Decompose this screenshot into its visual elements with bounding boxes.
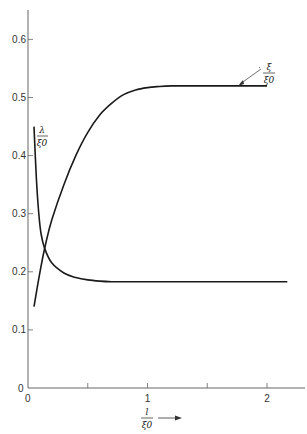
chart-canvas: 0.10.20.30.40.50.6 12 ξ ξ0 λ ξ0 0 0 l ξ0: [0, 0, 307, 434]
lambda-curve-label: λ ξ0: [37, 125, 48, 148]
xi-label-numerator: ξ: [267, 62, 273, 72]
y-tick-label: 0.1: [12, 324, 26, 335]
xi-curve: [34, 86, 267, 307]
axes: [28, 10, 305, 388]
y-tick-label: 0.5: [12, 92, 26, 103]
xi-label-leader: [259, 67, 260, 68]
series-layer: [34, 86, 287, 307]
y-tick-label: 0.2: [12, 266, 26, 277]
x-ticks: 12: [88, 383, 270, 404]
y-origin-label: 0: [18, 383, 24, 394]
y-tick-label: 0.6: [12, 34, 26, 45]
xi-label-denominator: ξ0: [264, 75, 275, 85]
x-axis-label: l ξ0: [141, 407, 182, 430]
lambda-label-denominator: ξ0: [37, 138, 48, 148]
x-label-numerator: l: [146, 407, 149, 417]
x-tick-label: 1: [145, 393, 151, 404]
y-ticks: 0.10.20.30.40.50.6: [12, 34, 33, 336]
xi-curve-label: ξ ξ0: [238, 62, 275, 86]
x-tick-label: 2: [264, 393, 270, 404]
y-tick-label: 0.3: [12, 208, 26, 219]
lambda-curve: [34, 127, 287, 282]
x-label-denominator: ξ0: [142, 420, 153, 430]
x-origin-label: 0: [25, 393, 31, 404]
arrow-right-icon: [175, 416, 182, 421]
y-tick-label: 0.4: [12, 150, 26, 161]
lambda-label-numerator: λ: [38, 125, 45, 135]
